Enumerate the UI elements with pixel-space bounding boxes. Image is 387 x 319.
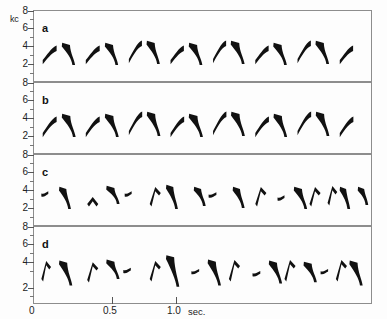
- song-element: [123, 268, 131, 273]
- song-element: [191, 269, 199, 274]
- song-element: [171, 46, 184, 65]
- song-element: [209, 192, 217, 197]
- song-element: [106, 259, 119, 279]
- song-element: [166, 255, 179, 287]
- song-element: [43, 46, 57, 65]
- song-element: [59, 187, 71, 209]
- song-element: [41, 261, 51, 281]
- song-element: [231, 112, 245, 136]
- song-element: [213, 112, 226, 136]
- song-element: [273, 43, 287, 65]
- song-element: [316, 112, 330, 136]
- song-element: [255, 46, 268, 65]
- song-element: [150, 187, 161, 207]
- song-element: [105, 114, 119, 137]
- song-element: [106, 186, 119, 204]
- song-element: [189, 43, 203, 65]
- song-element: [147, 112, 161, 136]
- trace-group-b: [43, 112, 354, 138]
- song-element: [298, 112, 312, 136]
- song-element: [340, 187, 351, 209]
- song-element: [62, 114, 76, 137]
- song-element: [147, 41, 160, 64]
- song-element: [86, 117, 100, 138]
- song-element: [41, 191, 48, 196]
- song-element: [304, 262, 317, 283]
- song-element: [86, 46, 100, 65]
- song-element: [233, 187, 245, 208]
- song-element: [315, 41, 329, 64]
- song-element: [349, 261, 362, 286]
- song-element: [255, 117, 269, 138]
- trace-group-a: [43, 41, 353, 65]
- song-element: [43, 117, 57, 138]
- song-element: [284, 260, 295, 282]
- song-element: [298, 41, 311, 64]
- song-element: [336, 260, 347, 282]
- song-element: [105, 43, 118, 65]
- song-element: [229, 260, 240, 282]
- song-element: [309, 187, 320, 207]
- spectrogram-figure: kc a b c d 8 6 4 2 8 6 4 2 8 6 4 2 8 6: [0, 0, 387, 319]
- song-element: [87, 262, 98, 282]
- song-element: [269, 261, 282, 284]
- song-element: [150, 261, 161, 281]
- song-element: [208, 259, 221, 285]
- trace-group-c: [41, 185, 368, 209]
- song-element: [340, 117, 354, 138]
- song-element: [274, 114, 288, 137]
- song-element: [253, 271, 261, 276]
- song-element: [340, 46, 353, 65]
- song-element: [59, 261, 72, 286]
- song-element: [166, 185, 178, 209]
- song-element: [62, 43, 75, 65]
- song-element: [194, 187, 206, 206]
- song-element: [213, 41, 226, 64]
- song-element: [294, 187, 307, 209]
- trace-group-d: [41, 255, 362, 287]
- song-element: [231, 41, 245, 64]
- waveform-trace-layer: [0, 0, 387, 319]
- song-element: [358, 187, 369, 205]
- song-element: [255, 187, 266, 207]
- song-element: [125, 191, 132, 196]
- song-element: [278, 195, 285, 200]
- song-element: [129, 112, 142, 136]
- song-element: [129, 41, 142, 64]
- song-element: [87, 197, 98, 207]
- song-element: [189, 114, 203, 137]
- song-element: [321, 269, 329, 274]
- song-element: [171, 117, 185, 138]
- song-element: [328, 186, 338, 206]
